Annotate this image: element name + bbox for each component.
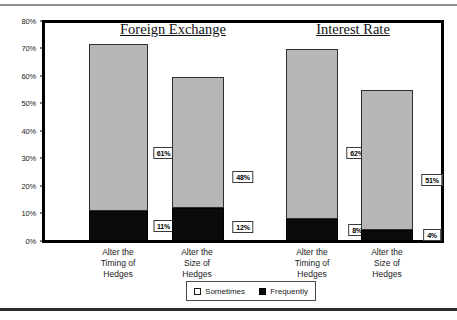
data-label-fx-timing-sometimes: 61% <box>153 147 174 159</box>
bar-fx-size[interactable] <box>172 77 224 241</box>
legend-swatch-filled-square-icon <box>259 288 266 295</box>
bar-ir-timing[interactable] <box>286 49 338 241</box>
bar-segment-frequently <box>89 211 148 241</box>
bar-segment-frequently <box>286 219 338 241</box>
legend-item-sometimes[interactable]: Sometimes <box>194 287 245 296</box>
bar-segment-sometimes <box>172 77 224 208</box>
y-tick-label-70: 70% <box>22 44 36 53</box>
legend-label-frequently: Frequently <box>270 287 308 296</box>
x-category-label-ir-size: Alter the Size of Hedges <box>352 247 422 280</box>
y-tick-label-40: 40% <box>22 127 36 136</box>
panel-title-foreign-exchange: Foreign Exchange <box>98 21 248 38</box>
bar-fx-timing[interactable] <box>89 44 148 241</box>
bar-segment-frequently <box>361 230 413 241</box>
legend-swatch-open-square-icon <box>194 288 201 295</box>
legend-label-sometimes: Sometimes <box>205 287 245 296</box>
page-rule-top <box>0 4 457 6</box>
x-category-label-ir-timing: Alter the Timing of Hedges <box>277 247 347 280</box>
y-tick-label-60: 60% <box>22 72 36 81</box>
data-label-ir-size-frequently: 4% <box>423 229 441 241</box>
legend-item-frequently[interactable]: Frequently <box>259 287 308 296</box>
bar-segment-sometimes <box>361 90 413 230</box>
chart-legend: Sometimes Frequently <box>186 281 316 301</box>
bar-segment-frequently <box>172 208 224 241</box>
page-rule-bottom <box>0 308 457 311</box>
data-label-fx-size-frequently: 12% <box>232 221 253 233</box>
bar-segment-sometimes <box>286 49 338 219</box>
y-tick-label-80: 80% <box>22 17 36 26</box>
x-category-label-fx-timing: Alter the Timing of Hedges <box>83 247 153 280</box>
y-tick-label-50: 50% <box>22 99 36 108</box>
x-category-label-fx-size: Alter the Size of Hedges <box>162 247 232 280</box>
bar-segment-sometimes <box>89 44 148 211</box>
y-tick-label-0: 0% <box>26 237 36 246</box>
panel-title-interest-rate: Interest Rate <box>293 21 413 38</box>
data-label-fx-timing-frequently: 11% <box>153 220 174 232</box>
y-axis: 80% 70% 60% 50% 40% 30% 20% 10% 0% <box>0 14 40 254</box>
data-label-fx-size-sometimes: 48% <box>232 171 253 183</box>
chart-figure: 80% 70% 60% 50% 40% 30% 20% 10% 0% Forei… <box>0 0 457 320</box>
y-tick-label-10: 10% <box>22 209 36 218</box>
plot-area: Foreign Exchange Interest Rate 61% 11% 4… <box>45 22 442 241</box>
bar-ir-size[interactable] <box>361 90 413 241</box>
y-tick-label-30: 30% <box>22 154 36 163</box>
y-tick-label-20: 20% <box>22 182 36 191</box>
data-label-ir-size-sometimes: 51% <box>421 174 442 186</box>
